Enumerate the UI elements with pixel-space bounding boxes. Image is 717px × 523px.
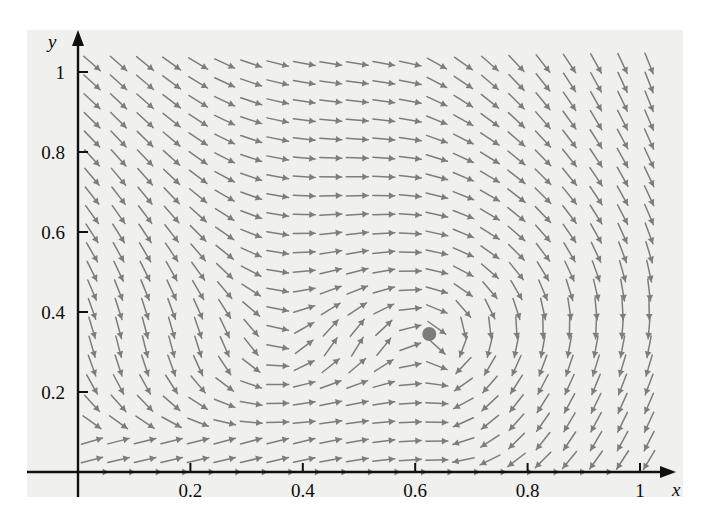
y-tick-label: 1 [10,63,65,82]
y-tick-label: 0.4 [10,303,65,322]
x-axis-label: x [672,480,680,499]
y-tick-label: 0.2 [10,383,65,402]
x-tick-label: 0.4 [291,481,315,500]
x-tick-label: 0.8 [516,481,540,500]
y-tick-label: 0.6 [10,223,65,242]
y-tick-label: 0.8 [10,143,65,162]
x-tick-label: 0.6 [403,481,427,500]
x-tick-label: 0.2 [179,481,203,500]
x-tick-label: 1 [635,481,645,500]
plot-panel-background [27,30,683,497]
y-axis-label: y [48,32,56,51]
figure-root: y x 0.20.40.60.81 0.20.40.60.81 [0,0,717,523]
